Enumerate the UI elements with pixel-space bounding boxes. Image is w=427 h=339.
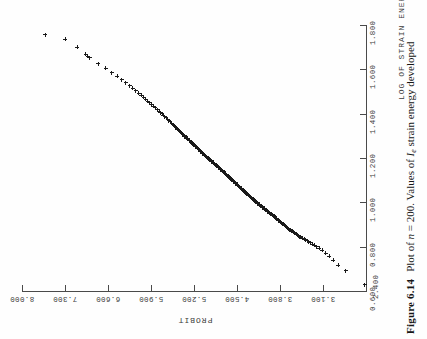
- data-point: [202, 152, 206, 156]
- data-point: [269, 212, 273, 216]
- data-point: [153, 106, 157, 110]
- log-axis-line: [366, 25, 367, 292]
- data-point: [302, 237, 306, 241]
- data-point: [331, 258, 335, 262]
- data-point: [110, 71, 114, 75]
- data-point: [247, 194, 251, 198]
- data-point: [209, 158, 213, 162]
- data-point: [280, 221, 284, 225]
- data-point: [252, 198, 256, 202]
- data-point: [96, 62, 100, 66]
- data-point: [174, 126, 178, 130]
- data-point: [276, 218, 280, 222]
- data-point: [273, 215, 277, 219]
- caption-prefix: Plot of: [404, 239, 416, 271]
- data-point: [172, 124, 176, 128]
- caption-i-symbol: I: [404, 153, 416, 157]
- data-point: [210, 160, 214, 164]
- data-point: [188, 139, 192, 143]
- data-point: [198, 149, 202, 153]
- data-point: [315, 245, 319, 249]
- data-point: [299, 235, 303, 239]
- data-point: [245, 192, 249, 196]
- data-point: [220, 169, 224, 173]
- data-point: [158, 111, 162, 115]
- data-point: [242, 190, 246, 194]
- data-point: [157, 109, 161, 113]
- probit-tick: [323, 285, 324, 291]
- data-point: [255, 200, 259, 204]
- data-point: [144, 97, 148, 101]
- plot-area: 3.1003.8004.5005.2005.9006.6007.3008.000…: [0, 0, 400, 339]
- data-point: [184, 135, 188, 139]
- data-point: [212, 162, 216, 166]
- probit-tick-label: 3.800: [258, 295, 302, 303]
- data-point: [211, 160, 215, 164]
- data-point: [233, 181, 237, 185]
- log-tick: [360, 158, 366, 159]
- data-point: [237, 184, 241, 188]
- log-tick: [360, 25, 366, 26]
- probit-tick-label: 6.600: [86, 295, 130, 303]
- data-point: [289, 229, 293, 233]
- data-point: [238, 185, 242, 189]
- data-point: [218, 167, 222, 171]
- data-point: [213, 162, 217, 166]
- data-point: [185, 136, 189, 140]
- data-point: [300, 236, 304, 240]
- data-point: [134, 89, 138, 93]
- data-point: [180, 131, 184, 135]
- data-point: [215, 164, 219, 168]
- data-point: [214, 163, 218, 167]
- data-point: [178, 129, 182, 133]
- scatter-series: [0, 0, 400, 339]
- data-point: [239, 186, 243, 190]
- data-point: [233, 180, 237, 184]
- probit-tick: [22, 285, 23, 291]
- data-point: [277, 219, 281, 223]
- data-point: [115, 74, 119, 78]
- data-point: [191, 143, 195, 147]
- data-point: [263, 208, 267, 212]
- data-point: [226, 174, 230, 178]
- data-point: [336, 263, 340, 267]
- data-point: [254, 200, 258, 204]
- data-point: [204, 154, 208, 158]
- data-point: [177, 128, 181, 132]
- data-point: [269, 212, 273, 216]
- data-point: [231, 179, 235, 183]
- data-point: [249, 195, 253, 199]
- log-tick-label: 0.800: [369, 227, 379, 267]
- data-point: [303, 238, 307, 242]
- data-point: [163, 115, 167, 119]
- data-point: [235, 182, 239, 186]
- data-point: [263, 207, 267, 211]
- data-point: [206, 156, 210, 160]
- data-point: [232, 180, 236, 184]
- data-point: [287, 227, 291, 231]
- data-point: [268, 211, 272, 215]
- data-point: [195, 146, 199, 150]
- data-point: [199, 150, 203, 154]
- data-point: [164, 116, 168, 120]
- log-tick: [360, 114, 366, 115]
- data-point: [222, 170, 226, 174]
- figure-number: Figure 6.14: [404, 279, 416, 334]
- data-point: [128, 84, 132, 88]
- data-point: [204, 155, 208, 159]
- data-point: [258, 203, 262, 207]
- log-tick-label: 1.800: [369, 5, 379, 45]
- log-tick: [360, 69, 366, 70]
- data-point: [266, 210, 270, 214]
- data-point: [137, 91, 141, 95]
- data-point: [189, 140, 193, 144]
- log-tick: [360, 202, 366, 203]
- data-point: [88, 56, 92, 60]
- figure-caption-text: Plot of n = 200. Values of Ie strain ene…: [404, 42, 416, 272]
- data-point: [260, 205, 264, 209]
- data-point: [209, 159, 213, 163]
- data-point: [167, 119, 171, 123]
- data-point: [273, 214, 277, 218]
- data-point: [293, 231, 297, 235]
- data-point: [265, 208, 269, 212]
